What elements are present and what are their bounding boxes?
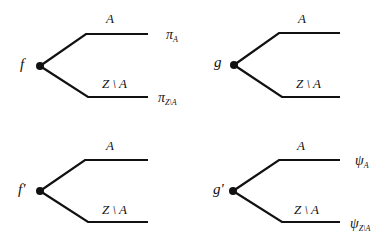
tree-f-prime-upper-branch <box>40 160 148 191</box>
tree-g-prime-upper-branch-label: A <box>297 139 305 152</box>
tree-f-lower-branch-label: Z \ A <box>102 77 127 90</box>
payoff-symbol: π <box>158 90 165 105</box>
tree-g <box>234 33 340 97</box>
tree-f <box>40 34 148 97</box>
tree-g-lower-branch-label: Z \ A <box>296 77 321 90</box>
tree-g-upper-branch-label: A <box>298 12 306 25</box>
payoff-symbol: π <box>166 27 173 42</box>
tree-g-upper-branch <box>234 33 340 65</box>
tree-g-prime-upper-payoff: ψA <box>355 154 369 170</box>
tree-g-prime-upper-branch <box>233 160 340 191</box>
payoff-subscript: A <box>364 161 369 170</box>
tree-f-upper-payoff: πA <box>166 28 178 44</box>
tree-f-prime-upper-branch-label: A <box>106 139 114 152</box>
payoff-subscript: A <box>173 35 178 44</box>
tree-f-node-label: f <box>20 57 24 72</box>
tree-g-prime-node <box>229 187 237 195</box>
tree-f-prime <box>40 160 148 222</box>
tree-f-upper-branch-label: A <box>106 12 114 25</box>
tree-g-lower-branch <box>234 65 340 97</box>
tree-f-prime-lower-branch-label: Z \ A <box>102 203 127 216</box>
payoff-subscript: Z\A <box>359 224 371 233</box>
tree-f-prime-node <box>36 187 44 195</box>
payoff-symbol: ψ <box>350 216 359 231</box>
decision-trees-diagram <box>0 0 389 242</box>
payoff-symbol: ψ <box>355 153 364 168</box>
tree-g-prime-lower-branch <box>233 191 340 222</box>
tree-f-prime-lower-branch <box>40 191 148 222</box>
tree-g-prime <box>233 160 340 222</box>
tree-g-prime-lower-payoff: ψZ\A <box>350 217 370 233</box>
tree-g-node <box>230 61 238 69</box>
payoff-subscript: Z\A <box>165 98 177 107</box>
tree-f-lower-branch <box>40 66 148 97</box>
tree-f-lower-payoff: πZ\A <box>158 91 177 107</box>
tree-g-node-label: g <box>214 55 222 70</box>
tree-f-upper-branch <box>40 34 148 66</box>
tree-g-prime-node-label: g' <box>213 182 224 197</box>
tree-f-node <box>36 62 44 70</box>
tree-g-prime-lower-branch-label: Z \ A <box>294 203 319 216</box>
tree-f-prime-node-label: f' <box>18 182 25 197</box>
